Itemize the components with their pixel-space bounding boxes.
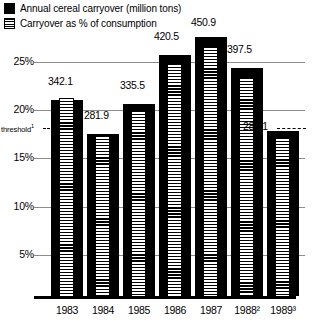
x-axis-label-1983: 1983	[47, 304, 87, 316]
bar-group-1987	[195, 26, 227, 296]
y-axis-label-10: 10%	[0, 200, 34, 212]
bar-percent-fill-1987	[204, 47, 217, 296]
bar-percent-fill-1989	[276, 138, 289, 296]
bar-group-1983	[51, 26, 83, 296]
plot-area: 25% 20% 15% 10% 5% threshold1 342.1	[0, 30, 313, 324]
legend-label-carryover-tons: Annual cereal carryover (million tons)	[20, 3, 181, 14]
solid-black-square-swatch-icon	[4, 3, 15, 14]
chart-figure: Annual cereal carryover (million tons) C…	[0, 0, 313, 324]
bar-percent-1983	[59, 98, 74, 296]
bar-percent-fill-1983	[60, 98, 73, 296]
threshold-footnote-marker: 1	[31, 123, 34, 129]
bar-group-1989	[267, 26, 299, 296]
x-axis-baseline	[34, 296, 296, 299]
y-axis-tick-15	[34, 158, 41, 159]
bar-value-label-1987: 450.9	[191, 16, 216, 28]
bar-percent-fill-1988	[240, 78, 253, 296]
bar-value-label-1983: 342.1	[48, 75, 73, 87]
bar-percent-1988	[239, 78, 254, 296]
bar-percent-1986	[167, 64, 182, 296]
bar-value-label-1989: 288.1	[243, 120, 268, 132]
x-axis-label-1984: 1984	[83, 304, 123, 316]
bar-group-1986	[159, 26, 191, 296]
bar-percent-fill-1985	[132, 111, 145, 296]
y-axis-tick-5	[34, 255, 41, 256]
bar-percent-1984	[95, 136, 110, 296]
y-axis-label-5: 5%	[0, 248, 34, 260]
legend-item-carryover-tons: Annual cereal carryover (million tons)	[4, 1, 294, 15]
x-axis-label-1987: 1987	[191, 304, 231, 316]
bar-group-1984	[87, 26, 119, 296]
y-axis-tick-20	[34, 110, 41, 111]
y-axis-label-25: 25%	[0, 55, 34, 67]
x-axis-label-1985: 1985	[119, 304, 159, 316]
bar-value-label-1988: 397.5	[227, 43, 252, 55]
bar-group-1985	[123, 26, 155, 296]
threshold-text: threshold	[1, 125, 31, 134]
threshold-annotation-label: threshold1	[1, 123, 34, 134]
bar-value-label-1984: 281.9	[84, 109, 109, 121]
bar-value-label-1986: 420.5	[154, 30, 179, 42]
y-axis-tick-10	[34, 207, 41, 208]
y-axis-label-15: 15%	[0, 151, 34, 163]
bar-group-1988	[231, 26, 263, 296]
y-axis-label-20: 20%	[0, 103, 34, 115]
bar-percent-1987	[203, 47, 218, 296]
striped-square-swatch-icon	[4, 18, 15, 29]
y-axis-tick-25	[34, 62, 41, 63]
bar-percent-1989	[275, 138, 290, 296]
bar-percent-1985	[131, 111, 146, 296]
bar-percent-fill-1986	[168, 64, 181, 296]
x-axis-label-1989: 1989³	[262, 304, 304, 316]
x-axis-label-1986: 1986	[155, 304, 195, 316]
bar-value-label-1985: 335.5	[120, 79, 145, 91]
bar-percent-fill-1984	[96, 136, 109, 296]
